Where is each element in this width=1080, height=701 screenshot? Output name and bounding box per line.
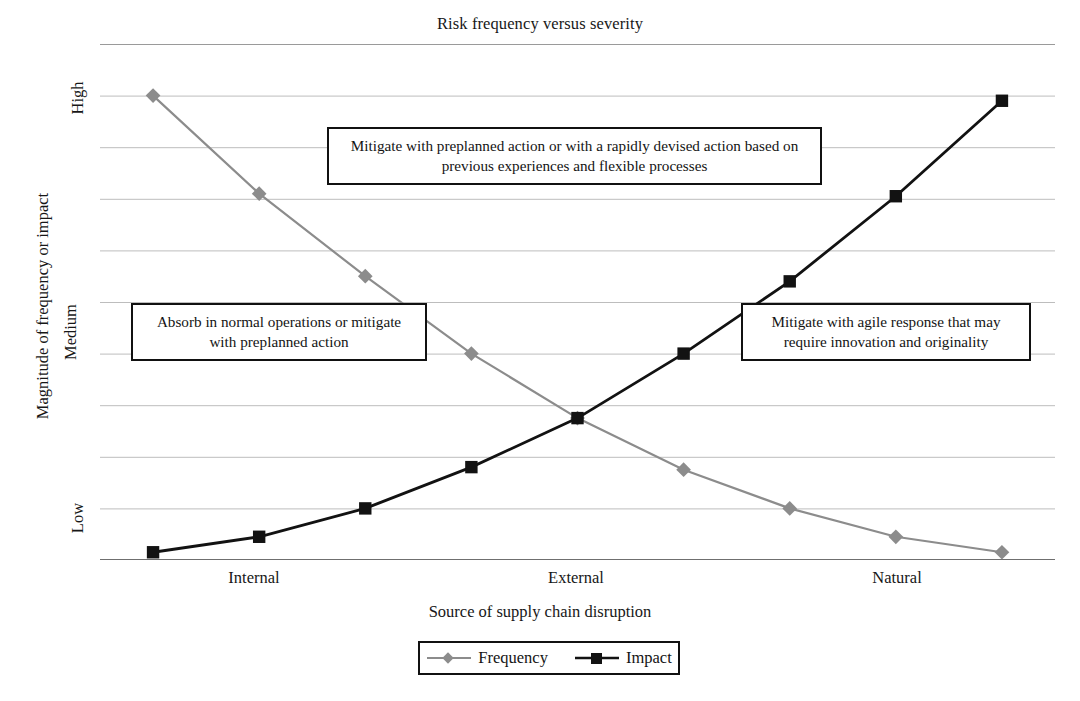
y-axis-title: Magnitude of frequency or impact	[33, 91, 53, 521]
x-tick-label-natural: Natural	[817, 568, 977, 588]
y-tick-label-low: Low	[68, 478, 88, 558]
legend-item-frequency: Frequency	[426, 648, 548, 668]
y-tick-label-medium: Medium	[61, 292, 81, 372]
legend-marker-square-icon	[574, 650, 620, 666]
annotation-box-top: Mitigate with preplanned action or with …	[327, 127, 822, 185]
annotation-box-left: Absorb in normal operations or mitigate …	[131, 303, 427, 361]
plot-svg	[100, 44, 1055, 560]
annotation-box-right: Mitigate with agile response that may re…	[741, 303, 1031, 361]
chart-figure: Risk frequency versus severity Magnitude…	[0, 0, 1080, 701]
x-axis	[100, 560, 1055, 561]
y-tick-label-high: High	[68, 58, 88, 138]
legend-label-impact: Impact	[626, 648, 672, 668]
chart-legend: Frequency Impact	[418, 641, 680, 675]
legend-marker-diamond-icon	[426, 650, 472, 666]
chart-title: Risk frequency versus severity	[0, 14, 1080, 34]
x-tick-label-external: External	[496, 568, 656, 588]
legend-label-frequency: Frequency	[478, 648, 548, 668]
legend-item-impact: Impact	[574, 648, 672, 668]
x-tick-label-internal: Internal	[174, 568, 334, 588]
plot-area	[100, 44, 1055, 560]
x-axis-title: Source of supply chain disruption	[0, 602, 1080, 622]
